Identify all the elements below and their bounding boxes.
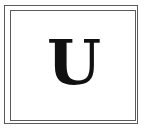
letter-glyph: U xyxy=(0,32,148,94)
